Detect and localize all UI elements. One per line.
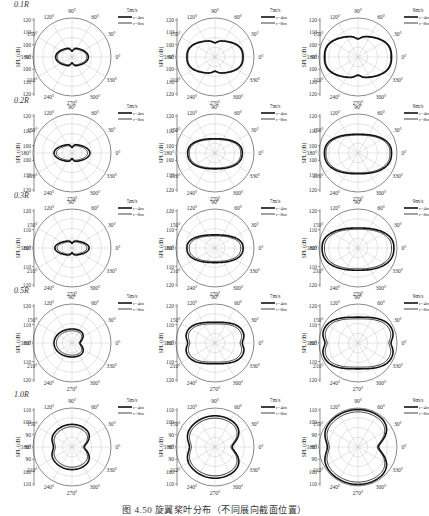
grid-spoke xyxy=(215,134,249,154)
legend-label-r4m: r=4m xyxy=(419,301,429,306)
angle-label: 120° xyxy=(187,404,197,410)
polar-panel: 120110100110120SPL (dB)0°30°60°90°120°15… xyxy=(286,294,429,391)
angle-label: 30° xyxy=(394,31,402,37)
angle-label: 300° xyxy=(90,190,100,196)
angle-label: 180° xyxy=(164,340,174,346)
angle-label: 330° xyxy=(393,173,403,179)
radial-tick-label: 120 xyxy=(309,208,318,214)
legend-label-r4m: r=4m xyxy=(419,206,429,211)
angle-label: 90° xyxy=(211,104,219,110)
angle-label: 150° xyxy=(27,222,37,228)
radial-tick-label: 120 xyxy=(23,17,32,23)
grid-spoke xyxy=(358,343,392,363)
grid-spoke xyxy=(358,153,392,173)
angle-label: 150° xyxy=(27,317,37,323)
angle-label: 90° xyxy=(211,199,219,205)
angle-label: 60° xyxy=(234,110,242,116)
grid-spoke xyxy=(358,447,378,481)
angle-label: 60° xyxy=(91,300,99,306)
angle-label: 300° xyxy=(90,285,100,291)
radial-tick-label: 100 xyxy=(309,42,318,48)
polar-panel: 120110100100110120SPL (dB)0°30°60°90°120… xyxy=(143,104,286,201)
grid-spoke xyxy=(358,229,392,249)
grid-spoke xyxy=(38,57,72,77)
angle-label: 150° xyxy=(170,317,180,323)
radial-tick-label: 100 xyxy=(166,143,175,149)
grid-spoke xyxy=(196,309,216,343)
radial-tick-label: 110 xyxy=(166,481,174,487)
angle-label: 180° xyxy=(21,340,31,346)
radial-tick-label: 110 xyxy=(309,407,317,413)
radial-tick-label: 120 xyxy=(166,282,175,288)
grid-spoke xyxy=(181,134,215,154)
angle-label: 0° xyxy=(402,245,407,251)
radial-tick-label: 120 xyxy=(166,377,175,383)
angle-label: 60° xyxy=(91,14,99,20)
angle-label: 90° xyxy=(211,294,219,300)
grid-spoke xyxy=(358,324,392,344)
angle-label: 330° xyxy=(107,173,117,179)
angle-label: 90° xyxy=(68,294,76,300)
grid-spoke xyxy=(358,413,378,447)
grid-spoke xyxy=(215,153,249,173)
angle-label: 30° xyxy=(394,127,402,133)
angle-label: 60° xyxy=(234,205,242,211)
angle-label: 120° xyxy=(44,404,54,410)
angle-label: 30° xyxy=(394,222,402,228)
angle-label: 240° xyxy=(44,484,54,490)
legend-title: 7m/s xyxy=(270,7,281,13)
angle-label: 150° xyxy=(313,127,323,133)
polar-chart: 110100908090100110SPL (dB)0°30°60°90°120… xyxy=(143,398,286,495)
angle-label: 0° xyxy=(402,340,407,346)
polar-plot-grid: 0.1R12011010090100110120SPL (dB)0°30°60°… xyxy=(0,0,429,500)
angle-label: 60° xyxy=(234,404,242,410)
radial-tick-label: 120 xyxy=(309,377,318,383)
angle-label: 150° xyxy=(170,127,180,133)
grid-spoke xyxy=(339,153,359,187)
legend-label-r4m: r=4m xyxy=(419,111,429,116)
angle-label: 300° xyxy=(90,484,100,490)
angle-label: 180° xyxy=(307,444,317,450)
grid-spoke xyxy=(38,38,72,58)
grid-spoke xyxy=(358,153,378,187)
legend-title: 5m/s xyxy=(127,293,138,299)
angle-label: 210° xyxy=(27,363,37,369)
radial-tick-label: 120 xyxy=(23,208,32,214)
legend-title: 9m/s xyxy=(413,198,424,204)
angle-label: 180° xyxy=(21,54,31,60)
angle-label: 330° xyxy=(250,77,260,83)
angle-label: 240° xyxy=(44,380,54,386)
angle-label: 60° xyxy=(377,14,385,20)
grid-spoke xyxy=(72,324,106,344)
angle-label: 270° xyxy=(67,490,77,496)
angle-label: 240° xyxy=(330,380,340,386)
angle-label: 240° xyxy=(330,484,340,490)
angle-label: 30° xyxy=(108,31,116,37)
angle-label: 30° xyxy=(108,317,116,323)
radial-tick-label: 110 xyxy=(23,481,31,487)
polar-chart: 12011010090100110120SPL (dB)0°30°60°90°1… xyxy=(143,8,286,105)
legend-label-r8m: r=8m xyxy=(419,21,429,26)
grid-spoke xyxy=(324,324,358,344)
angle-label: 330° xyxy=(107,363,117,369)
grid-spoke xyxy=(196,57,216,91)
angle-label: 90° xyxy=(354,104,362,110)
grid-spoke xyxy=(324,38,358,58)
grid-spoke xyxy=(72,57,106,77)
angle-label: 150° xyxy=(313,317,323,323)
angle-label: 60° xyxy=(377,300,385,306)
grid-spoke xyxy=(215,248,249,268)
grid-spoke xyxy=(181,428,215,448)
polar-panel: 120110100110120SPL (dB)0°30°60°90°120°15… xyxy=(143,199,286,296)
polar-panel: 110100908090100110SPL (dB)0°30°60°90°120… xyxy=(143,398,286,495)
radial-tick-label: 120 xyxy=(309,187,318,193)
angle-label: 210° xyxy=(313,268,323,274)
angle-label: 210° xyxy=(27,268,37,274)
grid-spoke xyxy=(181,248,215,268)
legend-title: 7m/s xyxy=(270,103,281,109)
angle-label: 120° xyxy=(44,14,54,20)
legend-title: 9m/s xyxy=(413,103,424,109)
angle-label: 0° xyxy=(116,54,121,60)
radial-tick-label: 120 xyxy=(309,113,318,119)
grid-spoke xyxy=(38,248,72,268)
